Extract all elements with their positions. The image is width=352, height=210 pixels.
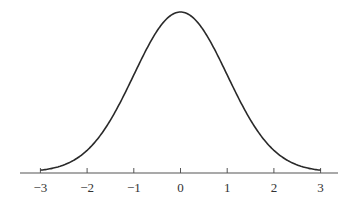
normal-distribution-chart: −3−2−10123 xyxy=(0,0,352,210)
x-tick-label: 2 xyxy=(271,180,278,195)
x-tick-label: 0 xyxy=(177,180,184,195)
x-tick-label: 3 xyxy=(317,180,324,195)
x-tick-label: 1 xyxy=(224,180,231,195)
normal-curve xyxy=(40,12,320,170)
x-tick-label: −1 xyxy=(127,180,141,195)
x-axis-ticks xyxy=(40,168,320,173)
x-tick-label: −3 xyxy=(33,180,47,195)
x-tick-label: −2 xyxy=(80,180,94,195)
x-axis-tick-labels: −3−2−10123 xyxy=(33,180,323,195)
